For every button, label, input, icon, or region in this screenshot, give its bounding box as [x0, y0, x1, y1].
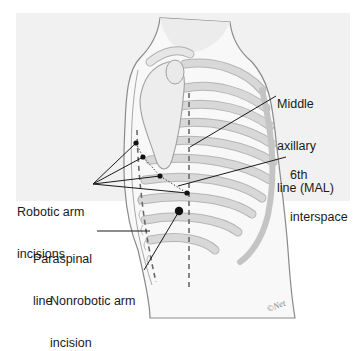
robotic-incision-dot-2: [140, 154, 145, 159]
robotic-incision-dot-4: [184, 190, 189, 195]
nonrobotic-label-line1: Nonrobotic arm: [50, 294, 135, 308]
robotic-label-line1: Robotic arm: [17, 205, 84, 219]
nonrobotic-incision-dot: [175, 207, 183, 215]
robotic-incision-dot-3: [157, 173, 162, 178]
mal-label-line1: Middle: [277, 97, 334, 111]
robotic-incision-dot-1: [133, 140, 138, 145]
humeral-head: [166, 60, 184, 84]
nonrobotic-label: Nonrobotic arm incision: [50, 266, 135, 351]
interspace-label-line2: interspace: [290, 210, 348, 224]
nonrobotic-label-line2: incision: [50, 336, 135, 350]
interspace-label: 6th interspace: [290, 140, 348, 252]
paraspinal-label-line1: Paraspinal: [33, 252, 92, 266]
interspace-label-line1: 6th: [290, 168, 348, 182]
